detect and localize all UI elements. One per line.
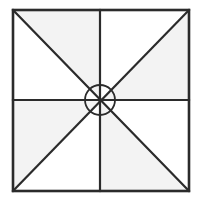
center-point xyxy=(98,98,102,102)
pinwheel-square-diagram xyxy=(0,0,199,209)
